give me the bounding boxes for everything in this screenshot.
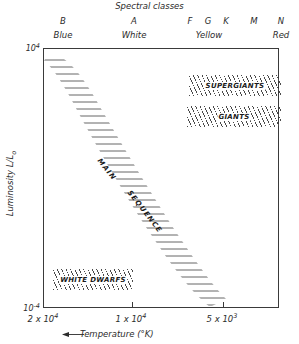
spectral-color-white: White (122, 31, 147, 40)
x-tick-mantissa: 5 x 10 (207, 314, 234, 324)
y-tick-label-1: 10-4 (23, 303, 43, 314)
spectral-color-red: Red (273, 31, 290, 40)
y-tick-exponent: -4 (34, 302, 40, 310)
y-tick-exponent: 4 (36, 42, 40, 50)
spectral-class-G: G (205, 17, 212, 26)
y-axis-title-text: Luminosity L/L (5, 155, 15, 217)
spectral-class-M: M (250, 17, 257, 26)
spectral-class-K: K (223, 17, 229, 26)
main-sequence-band (44, 49, 280, 309)
hr-diagram-figure: Spectral classes BAFGKMN BlueWhiteYellow… (0, 0, 299, 344)
spectral-class-N: N (278, 17, 284, 26)
spectral-color-blue: Blue (54, 31, 73, 40)
y-tick-label-0: 104 (26, 43, 43, 54)
x-tick-label-2: 5 x 103 (207, 313, 238, 323)
x-tick-mantissa: 2 x 10 (28, 314, 55, 324)
x-tick-label-0: 2 x 104 (28, 313, 59, 323)
x-tick-mantissa: 1 x 10 (116, 314, 143, 324)
x-tick-label-1: 1 x 104 (116, 313, 147, 323)
plot-area: SUPERGIANTSGIANTSWHITE DWARFS (43, 48, 279, 308)
spectral-classes-title: Spectral classes (0, 2, 299, 11)
x-tick-exponent: 4 (54, 312, 58, 320)
spectral-class-A: A (131, 17, 137, 26)
x-tick-exponent: 4 (142, 312, 146, 320)
y-tick-base: 10 (26, 44, 36, 53)
x-tick-exponent: 3 (233, 312, 237, 320)
spectral-class-F: F (188, 17, 193, 26)
y-tick-base: 10 (23, 304, 33, 313)
y-axis-title-subscript: o (10, 151, 18, 155)
y-axis-title: Luminosity L/Lo (6, 134, 17, 234)
spectral-class-B: B (60, 17, 66, 26)
x-axis-title: Temperature (°K) (80, 330, 154, 339)
main-sequence-hatching (44, 53, 280, 305)
spectral-color-yellow: Yellow (196, 31, 222, 40)
